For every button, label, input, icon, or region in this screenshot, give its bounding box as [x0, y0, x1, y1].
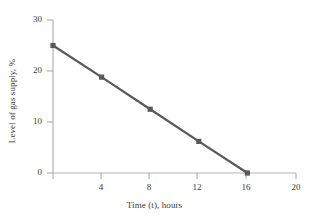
- y-tick-label-20: 20: [18, 65, 42, 75]
- x-tick-label-16: 16: [234, 182, 258, 192]
- x-tick-label-20: 20: [284, 182, 308, 192]
- y-axis-title: Level of gas supply, %: [7, 26, 17, 176]
- x-axis-ticks: [53, 173, 296, 179]
- data-point-marker: [50, 43, 55, 48]
- x-axis-title: Time (t), hours: [0, 200, 309, 210]
- x-tick-label-8: 8: [137, 182, 161, 192]
- x-tick-label-4: 4: [89, 182, 113, 192]
- x-tick-label-12: 12: [185, 182, 209, 192]
- data-point-marker: [245, 170, 250, 175]
- data-point-marker: [148, 107, 153, 112]
- data-point-marker: [99, 75, 104, 80]
- y-tick-label-10: 10: [18, 116, 42, 126]
- y-tick-label-30: 30: [18, 14, 42, 24]
- data-point-marker: [196, 139, 201, 144]
- line-chart: 0 10 20 30 4 8 12 16 20 Time (t), hours …: [0, 0, 309, 222]
- y-tick-label-0: 0: [18, 167, 42, 177]
